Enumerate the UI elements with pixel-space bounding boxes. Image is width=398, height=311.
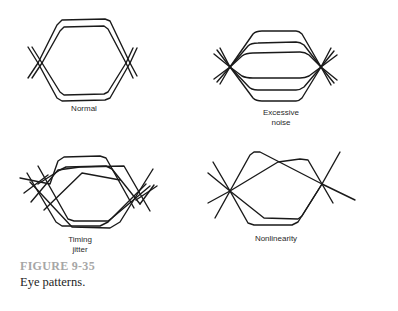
panel-label-line-1: Excessive	[256, 108, 306, 118]
panel-label-line-2: jitter	[60, 245, 100, 255]
panel-label-line-2: noise	[256, 118, 306, 128]
eye-pattern-timing-jitter	[20, 156, 157, 228]
figure-number: FIGURE 9-35	[20, 259, 95, 274]
panel-label-line-1: Timing	[60, 235, 100, 245]
figure-caption: Eye patterns.	[20, 275, 85, 290]
panel-label-normal: Normal	[64, 104, 104, 114]
panel-label-timing-jitter: Timing jitter	[60, 235, 100, 255]
panel-label-text: Nonlinearity	[255, 234, 297, 243]
eye-pattern-nonlinearity	[208, 152, 355, 225]
panel-label-text: Normal	[71, 104, 97, 113]
panel-label-excessive-noise: Excessive noise	[256, 108, 306, 128]
eye-pattern-excessive-noise	[214, 31, 337, 101]
panel-label-nonlinearity: Nonlinearity	[248, 234, 304, 244]
eye-pattern-normal	[28, 19, 137, 101]
